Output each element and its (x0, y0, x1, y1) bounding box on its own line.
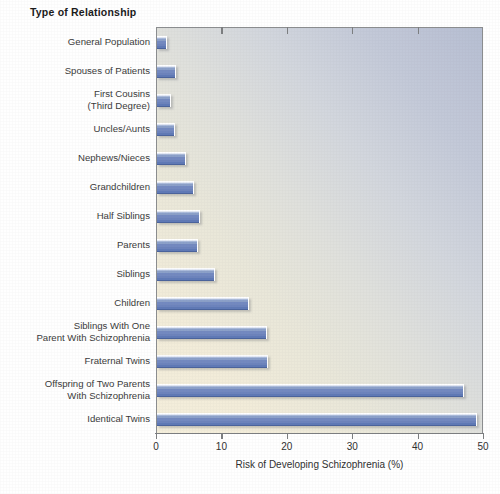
x-tick-label: 30 (347, 441, 358, 452)
y-axis-label: Uncles/Aunts (2, 123, 150, 135)
bar (157, 210, 200, 223)
x-tick-mark-top (221, 27, 222, 34)
x-tick-label: 50 (477, 441, 488, 452)
bar-row (157, 260, 482, 289)
bar (157, 181, 194, 194)
bar-row (157, 376, 482, 405)
y-axis-label: Offspring of Two Parents With Schizophre… (2, 378, 150, 401)
bar (157, 413, 477, 426)
bar-row (157, 144, 482, 173)
y-axis-label: Identical Twins (2, 413, 150, 425)
bar (157, 239, 198, 252)
x-tick-mark (483, 433, 484, 439)
x-axis-title: Risk of Developing Schizophrenia (%) (156, 459, 483, 470)
y-axis-label: Grandchildren (2, 181, 150, 193)
x-tick-mark (156, 433, 157, 439)
x-tick-mark (352, 433, 353, 439)
y-axis-category-labels: General PopulationSpouses of PatientsFir… (0, 27, 150, 433)
bar (157, 94, 171, 107)
bar-row (157, 202, 482, 231)
bar (157, 36, 167, 49)
x-tick-label: 40 (412, 441, 423, 452)
bar-row (157, 57, 482, 86)
x-tick-mark-top (287, 27, 288, 34)
y-axis-label: Half Siblings (2, 210, 150, 222)
x-tick-mark-top (352, 27, 353, 34)
bar-row (157, 405, 482, 433)
x-tick-mark (287, 433, 288, 439)
y-axis-label: Nephews/Nieces (2, 152, 150, 164)
bar-row (157, 86, 482, 115)
y-axis-label: First Cousins (Third Degree) (2, 88, 150, 111)
schizophrenia-risk-chart: Type of Relationship General PopulationS… (0, 0, 500, 494)
page-title: Type of Relationship (30, 6, 136, 18)
bar-row (157, 173, 482, 202)
bar-row (157, 115, 482, 144)
bar-row (157, 231, 482, 260)
x-tick-label: 10 (216, 441, 227, 452)
x-tick-label: 20 (281, 441, 292, 452)
bar (157, 65, 176, 78)
bar-row (157, 318, 482, 347)
x-tick-mark-top (418, 27, 419, 34)
y-axis-label: Spouses of Patients (2, 65, 150, 77)
x-axis-line (155, 433, 484, 434)
bar (157, 152, 186, 165)
bar (157, 268, 215, 281)
y-axis-label: Siblings (2, 268, 150, 280)
bar (157, 297, 249, 310)
y-axis-label: Parents (2, 239, 150, 251)
bar (157, 384, 464, 397)
x-tick-label: 0 (153, 441, 159, 452)
y-axis-label: Children (2, 297, 150, 309)
bar-row (157, 289, 482, 318)
plot-area (156, 27, 483, 433)
bar (157, 123, 175, 136)
bar (157, 355, 268, 368)
x-tick-mark (418, 433, 419, 439)
bar (157, 326, 267, 339)
bar-row (157, 347, 482, 376)
y-axis-label: Fraternal Twins (2, 355, 150, 367)
x-tick-mark (221, 433, 222, 439)
y-axis-label: General Population (2, 36, 150, 48)
y-axis-label: Siblings With One Parent With Schizophre… (2, 320, 150, 343)
bar-row (157, 28, 482, 57)
